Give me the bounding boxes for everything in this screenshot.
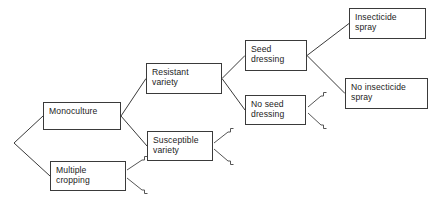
cut-mark-icon	[228, 161, 234, 165]
node-susceptible-variety: Susceptible variety	[147, 131, 213, 161]
cut-mark-icon	[321, 125, 327, 129]
node-no-seed-dressing: No seed dressing	[245, 95, 306, 125]
node-insecticide-spray: Insecticide spray	[349, 8, 426, 39]
truncated-branch-no-seed-dressing-down	[308, 113, 327, 129]
edge-resistant-variety-to-seed-dressing	[222, 56, 245, 79]
truncated-branch-multiple-cropping-up	[127, 157, 148, 171]
truncated-branch-susceptible-variety-up	[214, 129, 234, 144]
cut-mark-icon	[142, 190, 148, 194]
cut-mark-icon	[228, 129, 234, 133]
edge-root-to-multiple-cropping	[14, 143, 50, 176]
decision-tree-diagram: MonocultureMultiple croppingResistant va…	[0, 0, 432, 205]
edge-seed-dressing-to-insecticide-spray	[307, 24, 349, 56]
cut-mark-icon	[321, 93, 327, 97]
truncated-branch-susceptible-variety-down	[214, 149, 234, 165]
truncated-branch-no-seed-dressing-up	[308, 93, 327, 108]
node-seed-dressing: Seed dressing	[245, 40, 307, 71]
edge-seed-dressing-to-no-insecticide-spray	[307, 56, 345, 94]
node-multiple-cropping: Multiple cropping	[50, 161, 126, 191]
node-no-insecticide-spray: No insecticide spray	[345, 78, 428, 109]
truncated-branch-multiple-cropping-down	[127, 178, 148, 194]
edge-monoculture-to-resistant-variety	[121, 79, 146, 117]
edge-monoculture-to-susceptible-variety	[121, 116, 147, 146]
edge-resistant-variety-to-no-seed-dressing	[222, 79, 245, 111]
node-resistant-variety: Resistant variety	[146, 63, 222, 94]
node-monoculture: Monoculture	[43, 102, 121, 130]
edge-root-to-monoculture	[14, 116, 43, 143]
